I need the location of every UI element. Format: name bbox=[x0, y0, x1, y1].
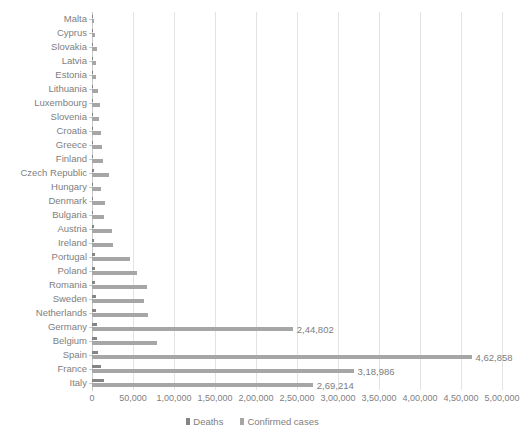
x-axis-tick-label: 50,000 bbox=[119, 393, 147, 404]
x-axis: 050,0001,00,0001,50,0002,00,0002,50,0003… bbox=[92, 391, 502, 407]
bar-confirmed-cases bbox=[92, 285, 147, 289]
category-label: Bulgaria bbox=[52, 208, 87, 223]
bar-deaths bbox=[92, 113, 93, 117]
category-label: Denmark bbox=[48, 194, 87, 209]
category-label: Estonia bbox=[55, 68, 87, 83]
chart-row: Finland bbox=[92, 152, 502, 166]
bar-deaths bbox=[92, 351, 98, 355]
category-rows: MaltaCyprusSlovakiaLatviaEstoniaLithuani… bbox=[92, 12, 502, 390]
bar-deaths bbox=[92, 99, 93, 103]
bar-confirmed-cases bbox=[92, 341, 157, 345]
bar-deaths bbox=[92, 169, 94, 173]
bar-confirmed-cases bbox=[92, 327, 293, 331]
bar-deaths bbox=[92, 253, 95, 257]
bar-confirmed-cases bbox=[92, 131, 101, 135]
category-label: Portugal bbox=[52, 250, 87, 265]
bar-confirmed-cases bbox=[92, 383, 313, 387]
bar-deaths bbox=[92, 127, 93, 131]
chart-row: Estonia bbox=[92, 68, 502, 82]
category-label: Romania bbox=[49, 278, 87, 293]
category-label: Slovenia bbox=[51, 110, 87, 125]
data-label: 2,44,802 bbox=[297, 325, 334, 335]
chart-row: Spain4,62,858 bbox=[92, 348, 502, 362]
chart-row: Hungary bbox=[92, 180, 502, 194]
bar-deaths bbox=[92, 155, 93, 159]
category-label: Latvia bbox=[62, 54, 87, 69]
chart-row: Bulgaria bbox=[92, 208, 502, 222]
bar-confirmed-cases bbox=[92, 159, 103, 163]
chart-row: Sweden bbox=[92, 292, 502, 306]
bar-deaths bbox=[92, 71, 93, 75]
x-axis-tick-label: 2,00,000 bbox=[238, 393, 273, 404]
bar-deaths bbox=[92, 267, 95, 271]
category-label: Sweden bbox=[53, 292, 87, 307]
bar-confirmed-cases bbox=[92, 61, 96, 65]
bar-confirmed-cases bbox=[92, 215, 104, 219]
bar-confirmed-cases bbox=[92, 89, 98, 93]
legend-swatch-icon bbox=[240, 418, 244, 425]
bar-confirmed-cases bbox=[92, 103, 100, 107]
category-label: Italy bbox=[70, 376, 87, 391]
bar-deaths bbox=[92, 183, 93, 187]
chart-row: Netherlands bbox=[92, 306, 502, 320]
bar-deaths bbox=[92, 141, 93, 145]
chart-row: Italy2,69,214 bbox=[92, 376, 502, 390]
legend-item[interactable]: Confirmed cases bbox=[240, 416, 318, 427]
category-label: Lithuania bbox=[48, 82, 87, 97]
category-label: France bbox=[57, 362, 87, 377]
bar-confirmed-cases bbox=[92, 271, 137, 275]
category-label: Spain bbox=[63, 348, 87, 363]
category-label: Czech Republic bbox=[20, 166, 87, 181]
bar-confirmed-cases bbox=[92, 313, 148, 317]
category-label: Greece bbox=[56, 138, 87, 153]
bar-confirmed-cases bbox=[92, 201, 105, 205]
chart-row: Cyprus bbox=[92, 26, 502, 40]
chart-row: Lithuania bbox=[92, 82, 502, 96]
chart-row: Portugal bbox=[92, 250, 502, 264]
plot-area: MaltaCyprusSlovakiaLatviaEstoniaLithuani… bbox=[92, 12, 502, 390]
x-axis-tick-label: 4,00,000 bbox=[402, 393, 437, 404]
x-axis-tick-label: 5,00,000 bbox=[484, 393, 519, 404]
bar-confirmed-cases bbox=[92, 369, 354, 373]
category-label: Netherlands bbox=[36, 306, 87, 321]
legend-label: Confirmed cases bbox=[247, 416, 318, 427]
bar-deaths bbox=[92, 379, 104, 383]
bar-confirmed-cases bbox=[92, 33, 95, 37]
bar-confirmed-cases bbox=[92, 117, 99, 121]
bar-confirmed-cases bbox=[92, 75, 96, 79]
bar-confirmed-cases bbox=[92, 257, 130, 261]
chart-row: Croatia bbox=[92, 124, 502, 138]
category-label: Malta bbox=[64, 12, 87, 27]
bar-confirmed-cases bbox=[92, 173, 109, 177]
legend-label: Deaths bbox=[193, 416, 223, 427]
bar-deaths bbox=[92, 43, 93, 47]
category-label: Hungary bbox=[51, 180, 87, 195]
chart-row: Belgium bbox=[92, 334, 502, 348]
category-label: Finland bbox=[56, 152, 87, 167]
chart-row: Czech Republic bbox=[92, 166, 502, 180]
bar-deaths bbox=[92, 309, 96, 313]
category-label: Luxembourg bbox=[34, 96, 87, 111]
bar-confirmed-cases bbox=[92, 47, 97, 51]
chart-row: Malta bbox=[92, 12, 502, 26]
chart-row: Ireland bbox=[92, 236, 502, 250]
chart-row: France3,18,986 bbox=[92, 362, 502, 376]
x-axis-tick-label: 3,00,000 bbox=[320, 393, 355, 404]
bar-deaths bbox=[92, 57, 93, 61]
bar-deaths bbox=[92, 211, 93, 215]
chart-row: Slovenia bbox=[92, 110, 502, 124]
bar-confirmed-cases bbox=[92, 187, 101, 191]
chart-row: Latvia bbox=[92, 54, 502, 68]
legend-item[interactable]: Deaths bbox=[186, 416, 223, 427]
bar-deaths bbox=[92, 85, 93, 89]
chart-row: Luxembourg bbox=[92, 96, 502, 110]
category-label: Croatia bbox=[56, 124, 87, 139]
bar-deaths bbox=[92, 15, 93, 19]
bar-confirmed-cases bbox=[92, 19, 94, 23]
chart-row: Slovakia bbox=[92, 40, 502, 54]
category-label: Slovakia bbox=[51, 40, 87, 55]
chart-row: Denmark bbox=[92, 194, 502, 208]
bar-deaths bbox=[92, 29, 93, 33]
bar-confirmed-cases bbox=[92, 299, 144, 303]
